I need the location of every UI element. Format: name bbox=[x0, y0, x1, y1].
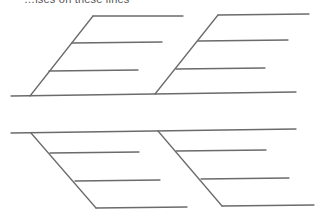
upper-left-bone-line bbox=[30, 16, 93, 96]
lower-left-rib-line-2 bbox=[75, 180, 160, 181]
upper-right-bone-line bbox=[155, 15, 218, 94]
lower-left-bone-line bbox=[31, 133, 96, 208]
upper-right-rib-line-1 bbox=[218, 14, 309, 15]
lower-left-rib-line-1 bbox=[50, 152, 139, 153]
upper-right-rib-line-3 bbox=[176, 68, 265, 69]
upper-spine-line bbox=[11, 92, 296, 96]
fishbone-diagram bbox=[0, 0, 322, 219]
upper-left-rib-line-3 bbox=[49, 70, 138, 71]
upper-right-rib-line-2 bbox=[198, 40, 288, 41]
lower-right-bone-line bbox=[158, 131, 222, 206]
lower-left-rib-line-3 bbox=[96, 207, 187, 208]
lower-spine-line bbox=[11, 129, 296, 133]
lower-right-rib-line-3 bbox=[222, 205, 314, 206]
upper-left-rib-line-2 bbox=[72, 42, 162, 43]
lower-right-rib-line-1 bbox=[176, 150, 266, 151]
lower-right-rib-line-2 bbox=[201, 178, 289, 179]
